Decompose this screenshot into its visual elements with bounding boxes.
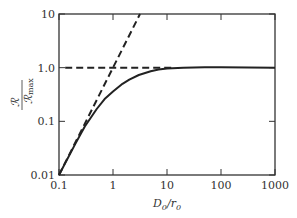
x-axis-label: D0/r0: [152, 197, 181, 212]
svg-text:ℛmax: ℛmax: [22, 78, 35, 104]
chart-root: 0.111010010000.010.11.010D0/r0ℛℛmax: [0, 0, 297, 218]
solid-curve: [59, 67, 275, 175]
x-tick-label: 10: [160, 179, 174, 192]
plot-frame: [59, 14, 275, 175]
y-tick-label: 1.0: [38, 62, 56, 75]
y-tick-label: 10: [41, 8, 55, 21]
dashed-asymptote-line: [59, 14, 140, 175]
y-tick-label: 0.1: [38, 115, 56, 128]
x-tick-label: 1: [110, 179, 117, 192]
x-tick-label: 100: [211, 179, 232, 192]
x-tick-label: 1000: [261, 179, 289, 192]
y-axis-label: ℛℛmax: [9, 78, 35, 110]
y-tick-label: 0.01: [31, 169, 56, 182]
log-log-plot: 0.111010010000.010.11.010D0/r0ℛℛmax: [0, 0, 297, 218]
svg-text:ℛ: ℛ: [9, 97, 22, 107]
